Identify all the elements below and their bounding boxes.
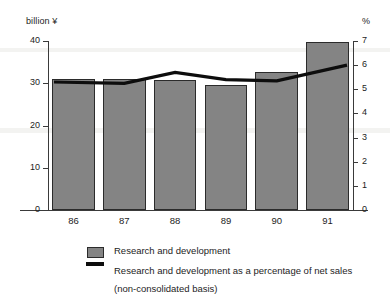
chart-legend: Research and development Research and de…	[84, 245, 384, 295]
bar	[154, 80, 197, 210]
right-tick-mark	[353, 138, 358, 139]
right-tick-label: 0	[362, 205, 367, 214]
chart-figure: billion ¥ % 010203040 01234567 868788899…	[0, 0, 390, 295]
right-tick-mark	[353, 186, 358, 187]
left-tick-label: 0	[18, 205, 40, 214]
left-tick-mark	[43, 83, 48, 84]
right-tick-mark	[353, 89, 358, 90]
legend-sublabel-line: (non-consolidated basis)	[114, 283, 218, 294]
left-tick-mark	[43, 168, 48, 169]
left-tick-label: 20	[18, 121, 40, 130]
left-axis-unit-label: billion ¥	[26, 16, 57, 26]
left-tick-label: 30	[18, 78, 40, 87]
right-tick-mark	[353, 162, 358, 163]
legend-item-bar: Research and development	[84, 245, 384, 258]
left-tick-mark	[43, 41, 48, 42]
right-tick-mark	[353, 65, 358, 66]
left-tick-label: 40	[18, 36, 40, 45]
bar	[255, 72, 298, 210]
legend-label-line-wrap: Research and development as a percentage…	[114, 260, 352, 295]
right-tick-mark	[353, 210, 358, 211]
legend-bar-swatch-icon	[84, 247, 106, 258]
left-axis-line	[48, 41, 49, 211]
left-tick-label: 10	[18, 163, 40, 172]
legend-item-line: Research and development as a percentage…	[84, 260, 384, 295]
x-axis-tick-label: 86	[48, 215, 99, 226]
left-tick-mark	[43, 210, 48, 211]
x-axis-tick-label: 87	[99, 215, 150, 226]
legend-label-line: Research and development as a percentage…	[114, 265, 352, 276]
right-tick-label: 7	[362, 36, 367, 45]
bar	[306, 42, 349, 210]
right-tick-label: 6	[362, 60, 367, 69]
x-axis-tick-label: 88	[150, 215, 201, 226]
bar	[52, 79, 95, 210]
x-axis-tick-label: 90	[251, 215, 302, 226]
right-tick-label: 3	[362, 133, 367, 142]
right-tick-label: 2	[362, 157, 367, 166]
right-tick-label: 5	[362, 84, 367, 93]
legend-line-swatch-icon	[84, 262, 106, 266]
right-axis-unit-label: %	[362, 16, 370, 26]
right-tick-mark	[353, 41, 358, 42]
right-tick-label: 1	[362, 181, 367, 190]
x-axis-tick-label: 91	[302, 215, 353, 226]
left-tick-mark	[43, 126, 48, 127]
right-tick-label: 4	[362, 108, 367, 117]
x-axis-line	[20, 210, 368, 211]
legend-label-bar: Research and development	[114, 245, 230, 257]
right-tick-mark	[353, 113, 358, 114]
bar	[103, 79, 146, 210]
bar	[205, 85, 248, 210]
x-axis-tick-label: 89	[201, 215, 252, 226]
